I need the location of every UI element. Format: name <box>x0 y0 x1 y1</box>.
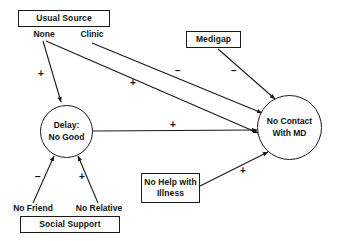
sign-nohelp-to-nocontact-text: + <box>240 165 246 176</box>
node-no-help-with-illness-label: No Help with Illness <box>144 177 197 198</box>
sign-nofriend-to-delay: − <box>33 172 43 182</box>
node-usual-source-none-label: None <box>33 29 54 39</box>
edge-delay-to-nocontact <box>93 130 257 131</box>
node-usual-source-label: Usual Source <box>36 13 92 24</box>
node-no-contact-with-md-label: No Contact With MD <box>267 116 312 138</box>
node-medigap-label: Medigap <box>196 34 231 45</box>
sign-clinic-to-nocontact-text: − <box>175 65 181 76</box>
sign-clinic-to-nocontact: − <box>173 66 183 76</box>
sign-delay-to-nocontact: + <box>168 120 178 130</box>
node-usual-source[interactable]: Usual Source <box>18 10 110 27</box>
node-medigap[interactable]: Medigap <box>186 31 241 48</box>
node-delay-no-good-label: Delay: No Good <box>49 120 85 142</box>
sign-norelative-to-delay: + <box>77 172 87 182</box>
edge-clinic-to-nocontact <box>92 43 262 113</box>
sign-medigap-to-nocontact-text: − <box>231 65 237 76</box>
node-no-friend-label: No Friend <box>13 203 53 213</box>
node-no-relative[interactable]: No Relative <box>70 203 128 213</box>
node-no-contact-with-md[interactable]: No Contact With MD <box>257 95 322 160</box>
sign-delay-to-nocontact-text: + <box>170 119 176 130</box>
sign-norelative-to-delay-text: + <box>79 171 85 182</box>
node-social-support[interactable]: Social Support <box>20 216 120 233</box>
sign-none-to-delay-text: + <box>38 68 44 79</box>
node-no-relative-label: No Relative <box>76 203 122 213</box>
node-no-friend[interactable]: No Friend <box>5 203 61 213</box>
node-social-support-label: Social Support <box>39 219 100 230</box>
node-usual-source-clinic[interactable]: Clinic <box>70 29 114 39</box>
sign-medigap-to-nocontact: − <box>229 66 239 76</box>
node-usual-source-none[interactable]: None <box>24 29 64 39</box>
node-no-help-with-illness[interactable]: No Help with Illness <box>141 173 200 203</box>
sign-nofriend-to-delay-text: − <box>35 171 41 182</box>
sign-none-to-nocontact: + <box>128 78 138 88</box>
edge-medigap-to-nocontact <box>218 49 275 99</box>
sign-none-to-delay: + <box>36 69 46 79</box>
node-delay-no-good[interactable]: Delay: No Good <box>40 105 93 158</box>
node-usual-source-clinic-label: Clinic <box>80 29 103 39</box>
edge-nohelp-to-nocontact <box>198 152 268 187</box>
sign-none-to-nocontact-text: + <box>130 77 136 88</box>
sign-nohelp-to-nocontact: + <box>238 166 248 176</box>
diagram-canvas: Usual Source None Clinic Medigap Delay: … <box>0 0 337 241</box>
